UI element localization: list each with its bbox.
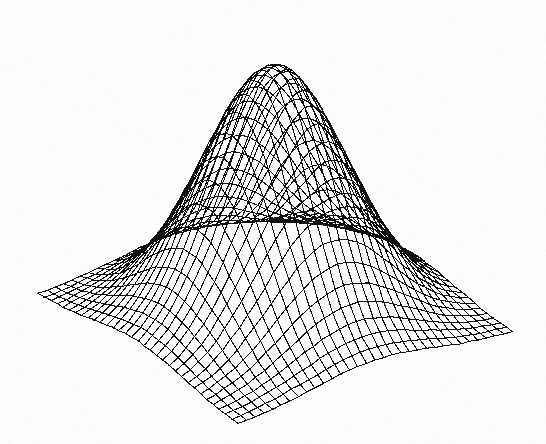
wireframe-mesh-surface [0,0,546,444]
surface-plot-figure [0,0,546,444]
mesh-lines-group [38,65,513,424]
